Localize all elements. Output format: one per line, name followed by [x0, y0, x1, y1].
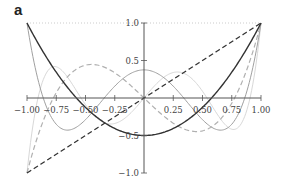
y-tick-label: 0.5 [125, 56, 139, 66]
y-tick-label: −0.5 [118, 131, 139, 141]
y-tick-label: 1.0 [125, 18, 139, 28]
y-tick-label: −1.0 [118, 168, 139, 178]
legendre-chart: −1.00−0.75−0.50−0.250.250.500.751.001.00… [0, 0, 283, 188]
x-tick-label: 0.25 [164, 105, 183, 115]
x-tick-label: −0.50 [72, 105, 98, 115]
x-tick-label: −0.75 [43, 105, 69, 115]
x-tick-label: −1.00 [14, 105, 40, 115]
x-tick-label: 0.50 [193, 105, 212, 115]
x-tick-label: 0.75 [222, 105, 241, 115]
x-tick-label: 1.00 [252, 105, 271, 115]
x-tick-label: −0.25 [102, 105, 128, 115]
